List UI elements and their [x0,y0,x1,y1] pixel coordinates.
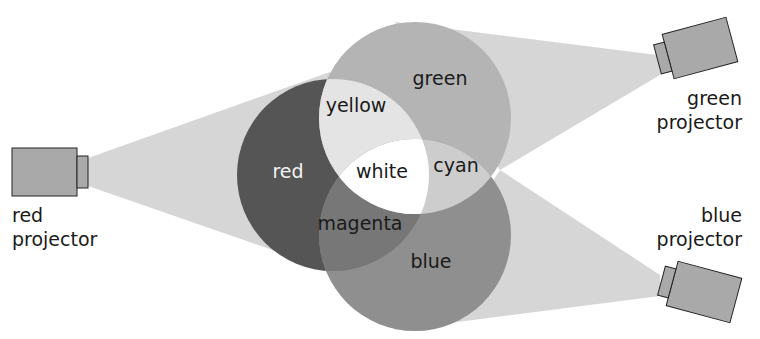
label-white: white [356,160,408,182]
label-red: red [272,160,303,182]
color-mixing-diagram: green yellow red white cyan magenta blue… [0,0,760,339]
blue-projector-label-line2: projector [657,228,743,250]
red-projector-label-line1: red [12,204,43,226]
blue-projector-icon [656,258,742,322]
label-green: green [413,67,468,89]
blue-projector-label-line1: blue [701,204,742,226]
label-yellow: yellow [326,94,387,116]
label-magenta: magenta [317,212,402,234]
label-cyan: cyan [433,154,478,176]
green-projector-icon [652,17,738,81]
red-projector-label-line2: projector [12,228,98,250]
label-blue: blue [410,250,451,272]
red-projector-icon [12,148,88,196]
green-projector-label-line2: projector [657,111,743,133]
green-projector-label-line1: green [687,87,742,109]
